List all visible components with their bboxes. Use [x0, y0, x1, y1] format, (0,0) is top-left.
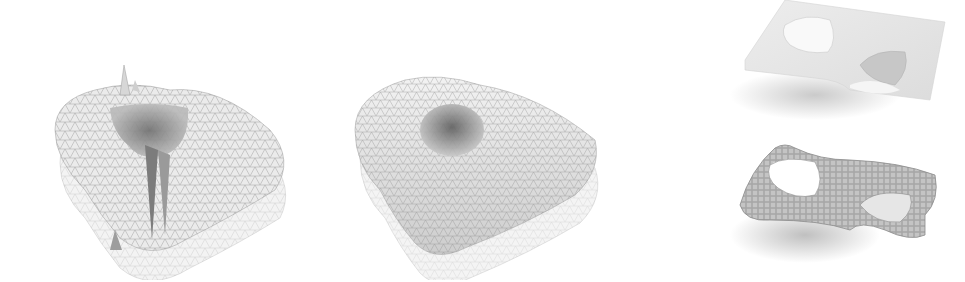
noisy-mesh-render — [40, 50, 310, 280]
smooth-mesh-render — [340, 60, 610, 280]
smooth-mesh-panel — [340, 60, 610, 280]
noisy-mesh-panel — [40, 50, 310, 280]
shaded-surface-render — [710, 0, 960, 130]
quad-mesh-panel — [710, 130, 960, 280]
quad-mesh-render — [710, 130, 960, 280]
shaded-surface-panel — [710, 0, 960, 130]
